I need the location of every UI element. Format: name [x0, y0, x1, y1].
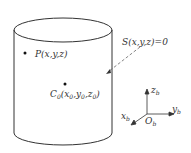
axis-z-label: zb [151, 86, 160, 96]
axis-x-label: xb [121, 112, 130, 122]
cylinder [14, 18, 112, 145]
center-c0-label: C0(x0,y0,z0) [50, 90, 100, 100]
point-c0-dot [64, 83, 67, 86]
axis-y-label: yb [172, 105, 181, 115]
point-p-dot [24, 52, 27, 55]
origin-label: Ob [145, 117, 156, 127]
diagram-canvas [0, 0, 191, 153]
surface-leader-line [108, 47, 140, 72]
surface-equation-label: S(x,y,z)=0 [122, 38, 168, 47]
point-p-label: P(x,y,z) [35, 50, 68, 59]
